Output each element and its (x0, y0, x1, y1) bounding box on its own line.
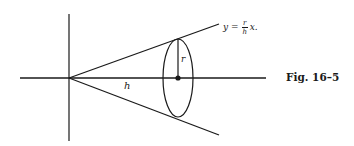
line-equation: y = r h x. (223, 17, 258, 37)
equation-fraction: r h (242, 19, 248, 36)
radius-label: r (181, 54, 185, 64)
center-dot (175, 75, 180, 80)
equation-rhs: x. (250, 22, 258, 32)
height-label: h (124, 80, 130, 91)
upper-line (69, 24, 219, 78)
equation-lhs: y (223, 22, 228, 32)
fraction-denominator: h (242, 28, 247, 36)
equation-equals: = (231, 22, 239, 32)
figure-canvas: h r y = r h x. Fig. 16–5 (0, 0, 354, 146)
fraction-numerator: r (243, 19, 246, 27)
lower-line (69, 78, 219, 135)
figure-caption: Fig. 16–5 (286, 71, 339, 83)
